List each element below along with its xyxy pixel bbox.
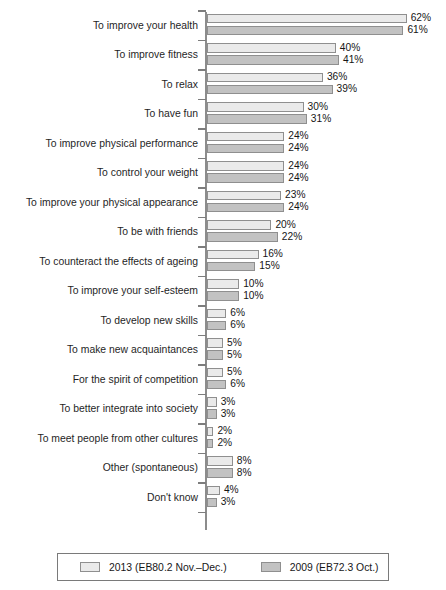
bar-value-label: 8% xyxy=(237,455,252,467)
bar-2013[interactable] xyxy=(207,456,233,466)
bar-2009[interactable] xyxy=(207,232,278,242)
bar-2013[interactable] xyxy=(207,368,223,378)
bar-2013[interactable] xyxy=(207,486,220,496)
chart-row: To improve physical performance24%24% xyxy=(0,128,446,158)
axis-tick xyxy=(198,364,206,366)
bar-2013[interactable] xyxy=(207,132,284,142)
bar-2009[interactable] xyxy=(207,321,226,331)
bar-value-label: 3% xyxy=(221,396,236,408)
bar-2009[interactable] xyxy=(207,468,233,478)
legend-label-2013: 2013 (EB80.2 Nov.–Dec.) xyxy=(109,562,227,573)
bar-line: 30% xyxy=(207,102,446,112)
axis-tick xyxy=(198,217,206,219)
bar-line: 24% xyxy=(207,203,446,213)
category-label: To counteract the effects of ageing xyxy=(39,255,198,266)
bar-group: 2%2% xyxy=(207,427,446,451)
bar-2013[interactable] xyxy=(207,43,336,53)
bar-2009[interactable] xyxy=(207,144,284,154)
legend-item-2013[interactable]: 2013 (EB80.2 Nov.–Dec.) xyxy=(80,562,227,573)
category-label: To develop new skills xyxy=(100,314,198,325)
bar-value-label: 15% xyxy=(259,260,279,272)
bar-2009[interactable] xyxy=(207,173,284,183)
bar-value-label: 6% xyxy=(230,319,245,331)
bar-2013[interactable] xyxy=(207,14,407,24)
category-label: To improve your self-esteem xyxy=(67,285,198,296)
bar-2013[interactable] xyxy=(207,102,304,112)
axis-tick xyxy=(198,335,206,337)
bar-line: 15% xyxy=(207,262,446,272)
axis-tick xyxy=(198,453,206,455)
bar-line: 20% xyxy=(207,220,446,230)
bar-2013[interactable] xyxy=(207,427,213,437)
bar-value-label: 2% xyxy=(217,437,232,449)
bar-value-label: 30% xyxy=(308,101,328,113)
bar-2009[interactable] xyxy=(207,262,255,272)
bar-2009[interactable] xyxy=(207,439,213,449)
bar-line: 22% xyxy=(207,232,446,242)
chart-row: To control your weight24%24% xyxy=(0,158,446,188)
bar-2009[interactable] xyxy=(207,409,217,419)
chart-row: To relax36%39% xyxy=(0,69,446,99)
bar-group: 40%41% xyxy=(207,43,446,67)
bar-2013[interactable] xyxy=(207,338,223,348)
bar-group: 10%10% xyxy=(207,279,446,303)
axis-tick xyxy=(198,187,206,189)
bar-group: 24%24% xyxy=(207,161,446,185)
bar-2009[interactable] xyxy=(207,380,226,390)
bar-2013[interactable] xyxy=(207,279,239,289)
category-label: For the spirit of competition xyxy=(73,373,198,384)
bar-line: 3% xyxy=(207,498,446,508)
bar-2009[interactable] xyxy=(207,291,239,301)
bar-2013[interactable] xyxy=(207,73,323,83)
bar-2013[interactable] xyxy=(207,397,217,407)
category-label: To improve your physical appearance xyxy=(26,196,198,207)
bar-2013[interactable] xyxy=(207,309,226,319)
bar-value-label: 10% xyxy=(243,278,263,290)
chart-row: Don't know4%3% xyxy=(0,482,446,512)
chart-row: To be with friends20%22% xyxy=(0,217,446,247)
bar-2009[interactable] xyxy=(207,85,333,95)
chart-row: To make new acquaintances5%5% xyxy=(0,335,446,365)
chart-row: To meet people from other cultures2%2% xyxy=(0,423,446,453)
category-label: To relax xyxy=(162,78,198,89)
bar-2009[interactable] xyxy=(207,114,307,124)
bar-2013[interactable] xyxy=(207,191,281,201)
bar-2009[interactable] xyxy=(207,26,403,36)
bar-line: 4% xyxy=(207,486,446,496)
axis-tick xyxy=(198,423,206,425)
bar-2009[interactable] xyxy=(207,350,223,360)
bar-value-label: 24% xyxy=(288,160,308,172)
bar-value-label: 4% xyxy=(224,484,239,496)
bar-value-label: 36% xyxy=(327,71,347,83)
bar-value-label: 2% xyxy=(217,425,232,437)
bar-value-label: 61% xyxy=(407,24,427,36)
bar-line: 6% xyxy=(207,321,446,331)
legend-item-2009[interactable]: 2009 (EB72.3 Oct.) xyxy=(261,562,379,573)
bar-2013[interactable] xyxy=(207,220,271,230)
bar-line: 23% xyxy=(207,191,446,201)
bar-value-label: 6% xyxy=(230,307,245,319)
bar-group: 3%3% xyxy=(207,397,446,421)
bar-group: 62%61% xyxy=(207,14,446,38)
bar-value-label: 31% xyxy=(311,113,331,125)
bar-2009[interactable] xyxy=(207,203,284,213)
bar-value-label: 62% xyxy=(411,12,431,24)
bar-line: 8% xyxy=(207,468,446,478)
bar-value-label: 24% xyxy=(288,142,308,154)
axis-tick xyxy=(198,276,206,278)
category-label: To have fun xyxy=(144,108,198,119)
bar-line: 40% xyxy=(207,43,446,53)
bar-2009[interactable] xyxy=(207,55,339,65)
bar-value-label: 22% xyxy=(282,231,302,243)
bar-line: 62% xyxy=(207,14,446,24)
bar-group: 8%8% xyxy=(207,456,446,480)
bar-2009[interactable] xyxy=(207,498,217,508)
bar-value-label: 41% xyxy=(343,54,363,66)
bar-line: 6% xyxy=(207,309,446,319)
bar-line: 3% xyxy=(207,397,446,407)
axis-tick xyxy=(198,246,206,248)
category-label: To meet people from other cultures xyxy=(37,432,198,443)
bar-2013[interactable] xyxy=(207,161,284,171)
bar-line: 24% xyxy=(207,144,446,154)
bar-2013[interactable] xyxy=(207,250,259,260)
